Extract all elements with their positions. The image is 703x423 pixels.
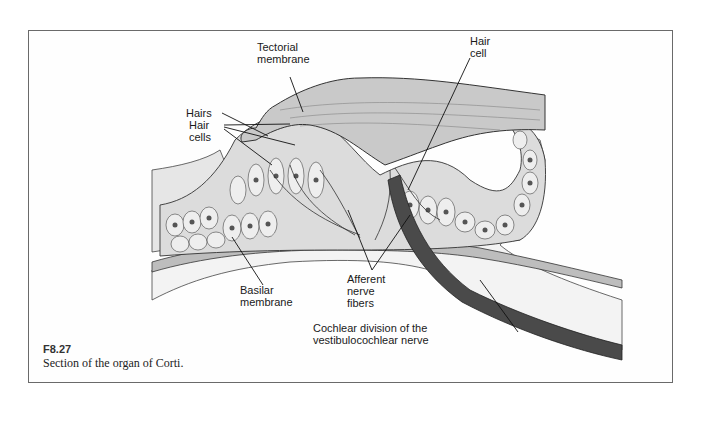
label-afferent-nerve-fibers: Afferent nerve fibers bbox=[347, 273, 385, 309]
label-line: Tectorial bbox=[257, 41, 310, 53]
label-line: cell bbox=[470, 47, 490, 59]
label-line: membrane bbox=[257, 53, 310, 65]
label-line: Hair bbox=[470, 35, 490, 47]
figure-number: F8.27 bbox=[43, 343, 71, 355]
label-line: Afferent bbox=[347, 273, 385, 285]
label-basilar-membrane: Basilar membrane bbox=[240, 284, 293, 308]
label-line: cells bbox=[189, 131, 211, 143]
label-line: membrane bbox=[240, 296, 293, 308]
label-hairs: Hairs bbox=[186, 107, 212, 119]
label-line: fibers bbox=[347, 297, 385, 309]
label-line: nerve bbox=[347, 285, 385, 297]
figure-caption: Section of the organ of Corti. bbox=[43, 356, 183, 371]
label-line: Basilar bbox=[240, 284, 293, 296]
label-line: Cochlear division of the bbox=[313, 322, 429, 334]
label-hair-cell: Hair cell bbox=[470, 35, 490, 59]
label-tectorial-membrane: Tectorial membrane bbox=[257, 41, 310, 65]
label-line: vestibulocochlear nerve bbox=[313, 334, 429, 346]
label-cochlear-division: Cochlear division of the vestibulocochle… bbox=[313, 322, 429, 346]
label-hair-cells: Hair cells bbox=[189, 119, 211, 143]
label-line: Hair bbox=[189, 119, 211, 131]
